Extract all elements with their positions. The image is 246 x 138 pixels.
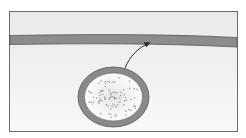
particle [101, 100, 102, 101]
particle [114, 81, 115, 82]
particle [114, 105, 115, 106]
particle [93, 101, 94, 102]
particle [90, 102, 91, 103]
particle [113, 81, 114, 82]
particle [100, 80, 101, 81]
particle [99, 100, 100, 101]
particle [100, 90, 101, 91]
particle [104, 97, 105, 98]
particle [92, 103, 93, 104]
particle [109, 98, 110, 99]
particle [128, 109, 129, 110]
particle [110, 114, 111, 115]
particle [98, 103, 99, 104]
particle [102, 94, 103, 95]
particle [110, 117, 111, 118]
particle [118, 77, 119, 78]
particle [100, 98, 101, 99]
particle [120, 92, 121, 93]
particle [102, 90, 103, 91]
particle [117, 104, 118, 105]
vesicle [78, 67, 149, 127]
particle [110, 97, 111, 98]
particle [120, 101, 121, 102]
particle [130, 110, 131, 111]
particle [123, 104, 124, 105]
particle [107, 105, 108, 106]
particle [111, 96, 112, 97]
particle [99, 92, 100, 93]
particle [108, 81, 109, 82]
particle [126, 100, 127, 101]
particle [99, 101, 100, 102]
particle [129, 88, 130, 89]
particle [115, 116, 116, 117]
particle [113, 97, 114, 98]
particle [109, 99, 110, 100]
particle [114, 92, 115, 93]
particle [91, 92, 92, 93]
particle [105, 86, 106, 87]
particle [105, 99, 106, 100]
particle [89, 92, 90, 93]
particle [119, 97, 120, 98]
particle [118, 102, 119, 103]
particle [116, 115, 117, 116]
vesicle-membrane-diagram [0, 0, 246, 138]
particle [136, 89, 137, 90]
particle [134, 105, 135, 106]
particle [112, 104, 113, 105]
particle [96, 97, 97, 98]
particle [123, 89, 124, 90]
particle [124, 100, 125, 101]
particle [108, 113, 109, 114]
particle [109, 82, 110, 83]
particle [116, 98, 117, 99]
particle [120, 95, 121, 96]
particle [116, 107, 117, 108]
particle [135, 108, 136, 109]
particle [93, 97, 94, 98]
particle [125, 111, 126, 112]
particle [129, 81, 130, 82]
particle [110, 109, 111, 110]
particle [100, 113, 101, 114]
particle [134, 88, 135, 89]
particle [113, 92, 114, 93]
particle [106, 104, 107, 105]
particle [125, 115, 126, 116]
particle [105, 81, 106, 82]
particle [105, 83, 106, 84]
particle [104, 98, 105, 99]
particle [110, 92, 111, 93]
particle [88, 102, 89, 103]
particle [88, 91, 89, 92]
particle [98, 83, 99, 84]
particle [125, 97, 126, 98]
particle [110, 94, 111, 95]
particle [134, 97, 135, 98]
particle [111, 106, 112, 107]
particle [116, 92, 117, 93]
particle [130, 99, 131, 100]
particle [124, 94, 125, 95]
particle [108, 89, 109, 90]
particle [99, 95, 100, 96]
